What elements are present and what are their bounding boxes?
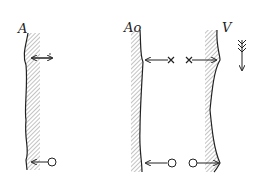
marker-circle-left	[146, 159, 176, 167]
flow-arrow-icon	[238, 40, 246, 70]
label-ao: Ao	[124, 21, 141, 34]
label-a: A	[18, 22, 27, 35]
marker-x-left	[146, 57, 174, 63]
label-v: V	[222, 21, 231, 34]
wall-a	[24, 33, 40, 170]
wall-ao	[131, 30, 143, 172]
wall-v	[205, 30, 220, 172]
